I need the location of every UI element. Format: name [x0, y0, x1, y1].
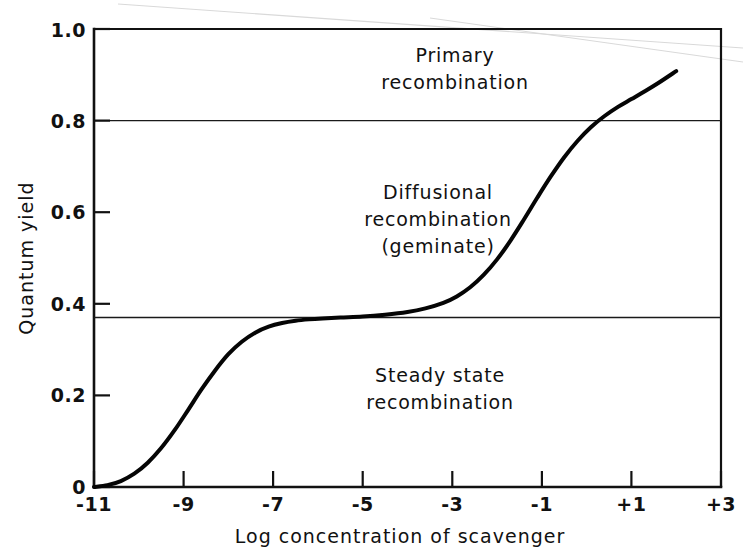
- y-tick-label-0.8: 0.8: [51, 110, 86, 132]
- x-tick-label--9: -9: [173, 493, 195, 515]
- x-tick-label--11: -11: [76, 493, 112, 515]
- annotation-diffusional-line-2: recombination: [364, 208, 511, 230]
- quantum-yield-chart: 0 0.2 0.4 0.6 0.8 1.0 -11 -9 -7 -5 -3 -1…: [0, 0, 743, 555]
- y-tick-label-0.6: 0.6: [51, 201, 86, 223]
- quantum-yield-curve: [94, 71, 676, 487]
- x-axis-ticks: [94, 471, 721, 487]
- annotation-primary-line-1: Primary: [415, 44, 494, 66]
- annotation-diffusional-line-1: Diffusional: [383, 181, 493, 203]
- y-tick-label-0.4: 0.4: [51, 293, 86, 315]
- y-tick-label-1.0: 1.0: [51, 19, 86, 41]
- annotation-diffusional-line-3: (geminate): [381, 235, 494, 257]
- y-axis-tick-labels: 0 0.2 0.4 0.6 0.8 1.0: [51, 19, 86, 498]
- plot-axes: [94, 29, 721, 487]
- annotation-steady-state-line-2: recombination: [366, 391, 513, 413]
- annotation-steady-state-line-1: Steady state: [375, 364, 505, 386]
- annotation-diffusional-recombination: Diffusional recombination (geminate): [364, 181, 511, 257]
- x-tick-label--5: -5: [352, 493, 374, 515]
- y-axis-ticks: [94, 29, 110, 487]
- figure-container: 0 0.2 0.4 0.6 0.8 1.0 -11 -9 -7 -5 -3 -1…: [0, 0, 743, 555]
- x-axis-title: Log concentration of scavenger: [235, 525, 565, 547]
- x-tick-label--1: -1: [531, 493, 553, 515]
- annotation-primary-recombination: Primary recombination: [381, 44, 528, 93]
- annotation-steady-state-recombination: Steady state recombination: [366, 364, 513, 413]
- plot-frame-top-right: [94, 29, 721, 487]
- annotation-primary-line-2: recombination: [381, 71, 528, 93]
- x-tick-label--7: -7: [262, 493, 284, 515]
- x-tick-label-+1: +1: [616, 493, 646, 515]
- x-tick-label--3: -3: [441, 493, 463, 515]
- y-tick-label-0.2: 0.2: [51, 384, 86, 406]
- scan-crease-artifact: [118, 4, 743, 48]
- x-axis-tick-labels: -11 -9 -7 -5 -3 -1 +1 +3: [76, 493, 736, 515]
- y-axis-title: Quantum yield: [15, 181, 37, 334]
- x-tick-label-+3: +3: [706, 493, 736, 515]
